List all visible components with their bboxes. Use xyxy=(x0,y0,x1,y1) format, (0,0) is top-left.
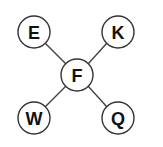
node-label: F xyxy=(72,66,83,86)
node-label: W xyxy=(26,109,43,129)
node-w: W xyxy=(18,102,50,134)
node-label: E xyxy=(28,23,40,43)
edge-f-k xyxy=(88,43,107,64)
edge-f-w xyxy=(45,86,66,107)
edge-f-q xyxy=(88,86,107,107)
node-f-center: F xyxy=(61,59,93,91)
node-label: Q xyxy=(111,109,125,129)
node-k: K xyxy=(102,16,134,48)
node-e: E xyxy=(18,16,50,48)
node-label: K xyxy=(112,23,125,43)
node-q: Q xyxy=(102,102,134,134)
star-diagram: E K F W Q xyxy=(0,0,163,147)
edge-f-e xyxy=(45,43,66,64)
